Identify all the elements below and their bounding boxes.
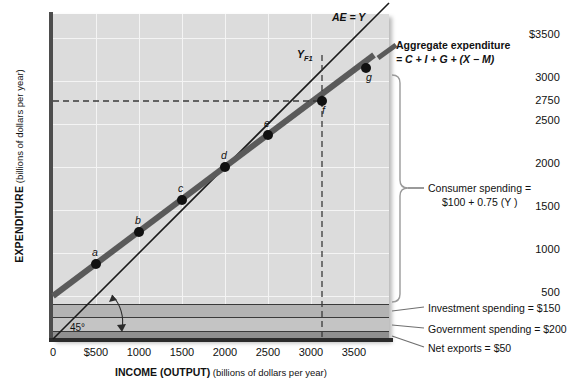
point-label-g: g [366,71,372,83]
x-axis-title: INCOME (OUTPUT) (billions of dollars per… [53,366,389,378]
angle-label-45: 45° [70,322,85,333]
equilibrium-label-main: Y [297,48,304,60]
point-label-b: b [135,214,141,226]
government-leader [392,325,424,328]
angle-arrow-down [117,324,126,332]
consumer-spending-line1: Consumer spending = [428,182,531,194]
data-point-c [177,195,187,205]
y-tick-2750: 2750 [512,94,560,106]
y-axis-title: EXPENDITURE (billions of dollars per yea… [13,51,25,281]
x-tick-3500: 3500 [324,346,384,358]
point-label-c: c [178,182,183,194]
y-axis-title-rest: (billions of dollars per year) [14,69,25,183]
net-exports-annotation: Net exports = $50 [428,341,511,355]
y-tick-500: 500 [512,286,560,298]
investment-leader [392,307,424,311]
y-tick-3000: 3000 [512,71,560,83]
equilibrium-label-sub: F1 [304,54,313,63]
ae-curve-title: Aggregate expenditure [396,39,510,51]
data-point-d [220,162,230,172]
consumer-spending-line2: $100 + 0.75 (Y ) [442,195,517,209]
netexports-leader [392,336,424,347]
point-label-f: f [322,104,325,116]
data-point-b [134,227,144,237]
y-tick-1000: 1000 [512,243,560,255]
y-tick-2000: 2000 [512,157,560,169]
point-label-d: d [221,149,227,161]
investment-spending-annotation: Investment spending = $150 [428,301,560,315]
ae-curve-annotation: Aggregate expenditure = C + I + G + (X −… [396,38,510,66]
point-label-a: a [92,246,98,258]
y-tick-2500: 2500 [512,114,560,126]
ae-label-leader [378,45,396,58]
point-label-e: e [264,117,270,129]
equilibrium-label: YF1 [297,48,313,63]
data-point-e [263,130,273,140]
government-spending-annotation: Government spending = $200 [428,322,567,336]
y-axis-title-bold: EXPENDITURE [13,186,25,263]
x-axis-title-bold: INCOME (OUTPUT) [115,366,210,378]
consumer-spending-annotation: Consumer spending = $100 + 0.75 (Y ) [428,181,531,209]
x-axis-title-rest: (billions of dollars per year) [213,367,327,378]
y-tick-3500: $3500 [512,28,560,40]
aggregate-expenditure-line [53,55,374,296]
data-point-a [91,259,101,269]
ae-curve-formula: = C + I + G + (X − M) [396,53,494,65]
consumer-spending-bracket [392,75,408,302]
identity-line-label: AE = Y [332,11,365,23]
angle-arrow-up [109,295,117,302]
